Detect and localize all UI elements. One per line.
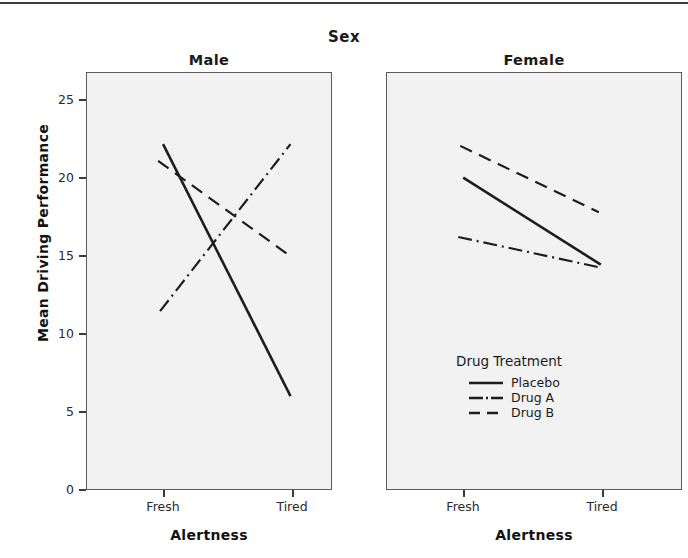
y-tick-mark-0: [79, 489, 86, 491]
x-tick-mark-male-fresh: [163, 490, 165, 497]
series-line-male-placebo: [163, 144, 290, 396]
legend-swatch-dash-dot-icon: [468, 393, 504, 403]
legend-title: Drug Treatment: [456, 353, 562, 369]
legend-item-drug-a[interactable]: Drug A: [468, 390, 562, 405]
legend-label-drug-b: Drug B: [511, 405, 554, 420]
legend-swatch-solid-icon: [468, 378, 504, 388]
y-tick-mark-20: [79, 177, 86, 179]
legend-item-placebo[interactable]: Placebo: [468, 375, 562, 390]
x-tick-label-male-tired: Tired: [252, 499, 332, 514]
x-tick-mark-male-tired: [292, 490, 294, 497]
y-tick-label-10: 10: [40, 326, 74, 341]
y-tick-label-5: 5: [40, 404, 74, 419]
top-divider-rule: [0, 2, 688, 4]
series-line-female-placebo: [463, 178, 601, 265]
y-tick-mark-15: [79, 255, 86, 257]
series-line-male-drug-b: [158, 161, 288, 255]
y-tick-label-20: 20: [40, 170, 74, 185]
x-tick-mark-female-fresh: [463, 490, 465, 497]
x-axis-title-male: Alertness: [86, 527, 332, 543]
series-line-female-drug-b: [460, 146, 599, 212]
x-axis-title-female: Alertness: [386, 527, 682, 543]
y-tick-label-15: 15: [40, 248, 74, 263]
x-tick-label-female-fresh: Fresh: [423, 499, 503, 514]
panel-title-male: Male: [86, 52, 332, 68]
y-tick-mark-10: [79, 333, 86, 335]
interaction-plot-figure: Sex Male Female Mean Driving Performance…: [0, 0, 688, 558]
panel-title-female: Female: [386, 52, 682, 68]
plot-panel-female: Drug Treatment Placebo Drug A Drug B: [386, 72, 682, 490]
series-line-male-drug-a: [160, 144, 290, 311]
legend-item-drug-b[interactable]: Drug B: [468, 405, 562, 420]
legend: Drug Treatment Placebo Drug A Drug B: [456, 353, 562, 420]
plot-area-male: [87, 73, 330, 488]
x-tick-mark-female-tired: [602, 490, 604, 497]
legend-label-placebo: Placebo: [511, 375, 560, 390]
legend-swatch-dashed-icon: [468, 408, 504, 418]
y-tick-label-25: 25: [40, 92, 74, 107]
plot-area-female: [387, 73, 680, 488]
legend-label-drug-a: Drug A: [511, 390, 554, 405]
y-tick-label-0: 0: [40, 482, 74, 497]
y-tick-mark-5: [79, 411, 86, 413]
plot-panel-male: [86, 72, 332, 490]
group-title: Sex: [0, 28, 688, 46]
x-tick-label-male-fresh: Fresh: [123, 499, 203, 514]
y-tick-mark-25: [79, 99, 86, 101]
x-tick-label-female-tired: Tired: [562, 499, 642, 514]
